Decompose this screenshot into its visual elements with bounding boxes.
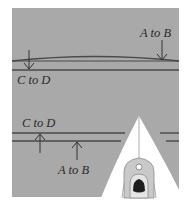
mast-icon: [136, 164, 142, 170]
label-c-to-d-bottom: C to D: [22, 116, 55, 130]
label-a-to-b-top: A to B: [139, 26, 171, 40]
label-c-to-d-top: C to D: [17, 73, 50, 87]
label-a-to-b-bottom: A to B: [57, 163, 89, 177]
transit-line-diagram: A to B C to D C to D A to B: [0, 0, 192, 207]
